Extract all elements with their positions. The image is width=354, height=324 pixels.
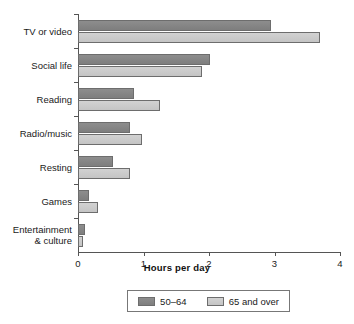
legend-swatch-icon	[207, 297, 224, 306]
bar	[78, 224, 85, 235]
x-axis-tick	[209, 252, 210, 256]
category-label: TV or video	[0, 26, 72, 37]
bar	[78, 134, 142, 145]
y-axis-tick	[74, 116, 78, 117]
bar	[78, 100, 160, 111]
plot-area: 01234	[78, 14, 340, 252]
bar	[78, 156, 113, 167]
category-label: Social life	[0, 60, 72, 71]
x-axis-tick	[340, 252, 341, 256]
category-label: Entertainment & culture	[0, 224, 72, 246]
y-axis-tick	[74, 218, 78, 219]
bar	[78, 190, 89, 201]
x-axis-tick	[78, 252, 79, 256]
category-label: Radio/music	[0, 128, 72, 139]
y-axis-tick	[74, 48, 78, 49]
legend-label: 65 and over	[229, 296, 279, 307]
y-axis-tick	[74, 14, 78, 15]
legend-item-series-0: 50–64	[138, 296, 186, 307]
y-axis-tick	[74, 184, 78, 185]
bar	[78, 202, 98, 213]
category-label: Games	[0, 196, 72, 207]
x-axis-title: Hours per day	[0, 262, 354, 273]
bar	[78, 20, 271, 31]
bar	[78, 54, 210, 65]
bar	[78, 236, 83, 247]
legend-label: 50–64	[160, 296, 186, 307]
bar	[78, 32, 320, 43]
category-label: Resting	[0, 162, 72, 173]
bar	[78, 66, 202, 77]
bar	[78, 88, 134, 99]
chart-legend: 50–64 65 and over	[127, 290, 290, 312]
x-axis-tick	[144, 252, 145, 256]
bar-chart: TV or videoSocial lifeReadingRadio/music…	[0, 0, 354, 324]
x-axis-tick	[275, 252, 276, 256]
bar	[78, 122, 130, 133]
y-axis-tick	[74, 82, 78, 83]
legend-item-series-1: 65 and over	[207, 296, 279, 307]
legend-swatch-icon	[138, 297, 155, 306]
y-axis-tick	[74, 150, 78, 151]
bar	[78, 168, 130, 179]
category-label: Reading	[0, 94, 72, 105]
